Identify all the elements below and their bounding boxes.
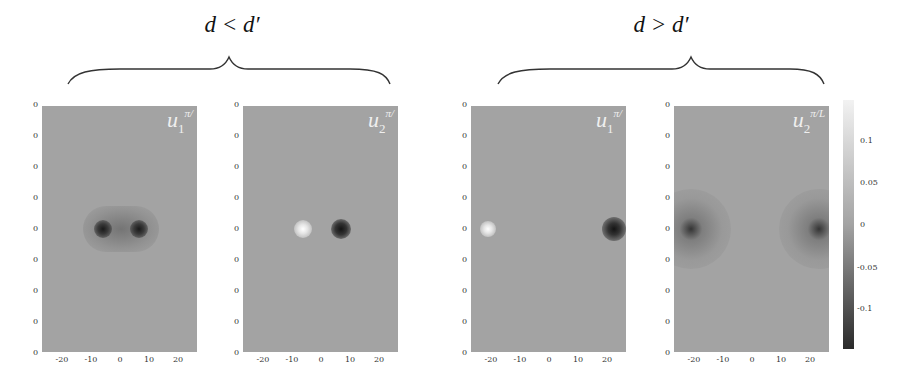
heatmap-panel-4: u2π/L (674, 106, 829, 352)
y-tick: 0 (457, 162, 467, 171)
x-tick: 0 (537, 355, 561, 364)
y-tick: 0 (660, 162, 670, 171)
x-tick: -10 (711, 355, 735, 364)
heatmap-panel-2: u2π/ (243, 106, 398, 352)
negative-peak (94, 220, 112, 238)
label-sup: π/ (184, 107, 193, 119)
y-tick: 0 (28, 317, 38, 326)
x-tick: 0 (740, 355, 764, 364)
y-tick: 0 (229, 193, 239, 202)
y-tick: 0 (28, 348, 38, 357)
label-sub: 1 (178, 121, 185, 136)
y-tick: 0 (28, 131, 38, 140)
colorbar-tick: 0.05 (860, 178, 878, 187)
x-tick: 10 (566, 355, 590, 364)
x-tick: 20 (595, 355, 619, 364)
x-tick: -20 (682, 355, 706, 364)
heatmap-panel-1: u1π/ (42, 106, 197, 352)
negative-halo (779, 189, 829, 269)
brace-right (490, 52, 830, 88)
y-tick: 0 (457, 131, 467, 140)
x-tick: -20 (50, 355, 74, 364)
group-title-right: d > d′ (601, 12, 721, 38)
y-tick: 0 (229, 162, 239, 171)
label-sub: 1 (607, 121, 614, 136)
panel-label: u2π/L (793, 108, 825, 135)
y-tick: 0 (229, 224, 239, 233)
y-tick: 0 (457, 317, 467, 326)
x-tick: -10 (280, 355, 304, 364)
y-tick: 0 (457, 193, 467, 202)
x-tick: 10 (137, 355, 161, 364)
x-tick: -20 (479, 355, 503, 364)
y-tick: 0 (457, 255, 467, 264)
colorbar-tick: -0.05 (857, 263, 878, 272)
y-tick: 0 (229, 131, 239, 140)
y-tick: 0 (660, 286, 670, 295)
x-tick: -10 (79, 355, 103, 364)
y-tick: 0 (28, 162, 38, 171)
colorbar-tick: -0.1 (857, 304, 872, 313)
y-tick: 0 (660, 348, 670, 357)
x-tick: 20 (367, 355, 391, 364)
y-tick: 0 (660, 131, 670, 140)
x-tick: 20 (166, 355, 190, 364)
colorbar-tick: 0 (860, 220, 865, 229)
label-sup: π/L (810, 107, 825, 119)
colorbar-tick: 0.1 (860, 136, 873, 145)
panel-label: u1π/ (596, 108, 622, 135)
positive-peak (294, 220, 312, 238)
y-tick: 0 (229, 348, 239, 357)
label-main: u (596, 107, 607, 132)
x-tick: -10 (508, 355, 532, 364)
x-tick: 10 (769, 355, 793, 364)
panel-label: u1π/ (167, 108, 193, 135)
label-sub: 2 (804, 121, 811, 136)
negative-halo (674, 189, 731, 269)
y-tick: 0 (660, 317, 670, 326)
x-tick: 0 (108, 355, 132, 364)
y-tick: 0 (229, 286, 239, 295)
y-tick: 0 (229, 100, 239, 109)
heatmap-panel-3: u1π/ (471, 106, 626, 352)
y-tick: 0 (28, 255, 38, 264)
y-tick: 0 (457, 286, 467, 295)
x-tick: 0 (309, 355, 333, 364)
label-main: u (368, 107, 379, 132)
label-sup: π/ (613, 107, 622, 119)
label-sub: 2 (379, 121, 386, 136)
y-tick: 0 (457, 224, 467, 233)
brace-left (60, 52, 400, 88)
y-tick: 0 (229, 317, 239, 326)
x-tick: 10 (338, 355, 362, 364)
y-tick: 0 (229, 255, 239, 264)
y-tick: 0 (660, 255, 670, 264)
y-tick: 0 (457, 348, 467, 357)
label-main: u (167, 107, 178, 132)
y-tick: 0 (457, 100, 467, 109)
y-tick: 0 (28, 100, 38, 109)
y-tick: 0 (660, 193, 670, 202)
negative-peak (130, 220, 148, 238)
panel-label: u2π/ (368, 108, 394, 135)
label-sup: π/ (385, 107, 394, 119)
y-tick: 0 (28, 224, 38, 233)
y-tick: 0 (28, 286, 38, 295)
y-tick: 0 (660, 100, 670, 109)
y-tick: 0 (660, 224, 670, 233)
y-tick: 0 (28, 193, 38, 202)
label-main: u (793, 107, 804, 132)
colorbar (843, 100, 854, 349)
group-title-left: d < d′ (172, 12, 292, 38)
negative-peak (602, 217, 626, 241)
positive-peak (480, 221, 496, 237)
negative-peak (331, 219, 351, 239)
x-tick: -20 (251, 355, 275, 364)
x-tick: 20 (798, 355, 822, 364)
